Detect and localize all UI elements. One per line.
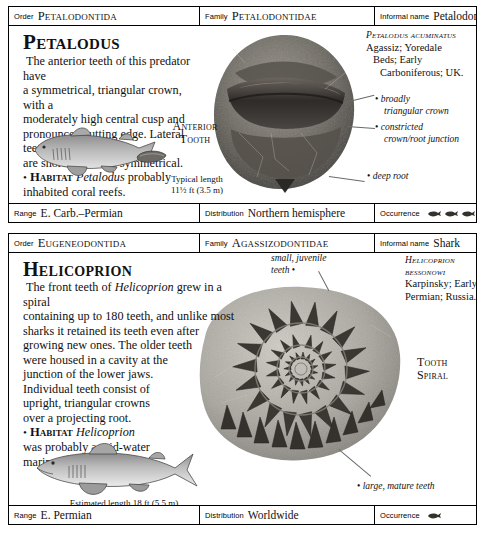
- petalodus-length-note: Typical length 11½ ft (3.5 m): [149, 174, 245, 197]
- annotation-line-2: teeth •: [271, 265, 361, 277]
- specimen-line-1: Karpinsky; Early: [405, 278, 476, 291]
- family-cell: Family Petalodontidae: [199, 7, 374, 25]
- fish-icon: [427, 210, 442, 217]
- occurrence-fish-group: [427, 512, 442, 519]
- annotation-broadly-triangular-crown: • broadly triangular crown: [375, 94, 476, 117]
- annotation-line-1: broadly: [381, 94, 410, 104]
- caption-line-1: Anterior: [159, 120, 231, 133]
- occurrence-label: Occurrence: [380, 511, 420, 520]
- length-value: 11½ ft (3.5 m): [149, 185, 245, 196]
- description-line-5: were housed in a cavity at the: [23, 353, 168, 367]
- specimen-line-3: Carboniferous; UK.: [366, 67, 476, 80]
- distribution-label: Distribution: [205, 209, 244, 218]
- tooth-spiral-caption: Tooth Spiral: [417, 356, 476, 382]
- fish-icon: [427, 512, 442, 519]
- helicoprion-specimen-credit: Helicoprion bessonowi Karpinsky; Early P…: [405, 255, 476, 304]
- informal-name-cell: Informal name Petalodont: [374, 7, 476, 25]
- description-line-3: sharks it retained its teeth even after: [23, 324, 199, 338]
- description-genus: Helicoprion: [115, 280, 174, 294]
- description-line-7: Individual teeth consist of: [23, 382, 150, 396]
- anterior-tooth-caption: Anterior Tooth: [159, 120, 231, 146]
- habitat-line-2: inhabited coral reefs.: [23, 185, 126, 199]
- order-label: Order: [14, 239, 34, 248]
- helicoprion-description: The front teeth of Helicoprion grew in a…: [23, 280, 238, 425]
- description-line-2: a symmetrical, triangular crown, with a: [23, 83, 182, 112]
- petalodus-footer-row: Range E. Carb.–Permian Distribution Nort…: [9, 203, 476, 222]
- informal-name-value: Petalodont: [433, 10, 476, 22]
- helicoprion-shark-illustration: [31, 438, 206, 500]
- description-line-1: The anterior teeth of this predator have: [23, 54, 190, 83]
- helicoprion-body: Helicoprion bessonowi Karpinsky; Early P…: [9, 253, 476, 505]
- petalodus-header-row: Order Petalodontida Family Petalodontida…: [9, 7, 476, 26]
- annotation-constricted-junction: • constricted crown/root junction: [375, 122, 476, 145]
- specimen-line-2: Beds; Early: [366, 54, 476, 67]
- informal-name-label: Informal name: [380, 239, 429, 248]
- petalodus-body: Petalodus acuminatus Agassiz; Yoredale B…: [9, 26, 476, 203]
- helicoprion-footer-row: Range E. Permian Distribution Worldwide …: [9, 505, 476, 524]
- range-cell: Range E. Permian: [9, 506, 199, 524]
- family-value: Petalodontidae: [232, 9, 317, 24]
- informal-name-label: Informal name: [380, 12, 429, 21]
- occurrence-label: Occurrence: [380, 209, 420, 218]
- order-cell: Order Petalodontida: [9, 7, 199, 25]
- length-value: Estimated length 18 ft (5.5 m): [39, 498, 209, 505]
- fish-icon: [461, 210, 476, 217]
- informal-name-cell: Informal name Shark: [374, 234, 476, 252]
- petalodus-fossil-photo: [205, 29, 365, 194]
- helicoprion-panel: Order Eugeneodontida Family Agassizodont…: [8, 233, 477, 525]
- description-line-8: upright, triangular crowns: [23, 396, 150, 410]
- informal-name-value: Shark: [433, 237, 460, 249]
- description-line-2: containing up to 180 teeth, and unlike m…: [23, 309, 234, 323]
- distribution-label: Distribution: [205, 511, 244, 520]
- specimen-line-2: Permian; Russia.: [405, 291, 476, 304]
- description-line-9: over a projecting root.: [23, 411, 131, 425]
- annotation-line-1: small, juvenile: [271, 253, 361, 265]
- petalodus-panel: Order Petalodontida Family Petalodontida…: [8, 6, 477, 223]
- range-cell: Range E. Carb.–Permian: [9, 204, 199, 222]
- fossil-reference-page: Order Petalodontida Family Petalodontida…: [0, 0, 485, 533]
- family-cell: Family Agassizodontidae: [199, 234, 374, 252]
- distribution-value: Northern hemisphere: [248, 207, 345, 219]
- annotation-line-1: large, mature teeth: [363, 481, 435, 491]
- helicoprion-length-note: Estimated length 18 ft (5.5 m): [39, 498, 209, 505]
- caption-line-2: Spiral: [417, 369, 476, 382]
- annotation-line-1: deep root: [373, 171, 409, 181]
- habitat-bullet: •: [23, 426, 27, 438]
- occurrence-cell: Occurrence: [374, 506, 476, 524]
- helicoprion-title: Helicoprion: [23, 259, 238, 279]
- annotation-small-juvenile-teeth: small, juvenile teeth •: [271, 253, 361, 276]
- fish-icon: [444, 210, 459, 217]
- distribution-cell: Distribution Worldwide: [199, 506, 374, 524]
- order-label: Order: [14, 12, 34, 21]
- distribution-cell: Distribution Northern hemisphere: [199, 204, 374, 222]
- description-line-4: growing new ones. The older teeth: [23, 338, 192, 352]
- small-tooth-icon: [135, 148, 169, 166]
- specimen-line-1: Agassiz; Yoredale: [366, 42, 476, 55]
- range-value: E. Carb.–Permian: [41, 207, 123, 219]
- specimen-binomial-line-2: bessonowi: [405, 267, 476, 279]
- family-value: Agassizodontidae: [232, 236, 329, 251]
- helicoprion-header-row: Order Eugeneodontida Family Agassizodont…: [9, 234, 476, 253]
- order-value: Eugeneodontida: [38, 236, 126, 251]
- range-value: E. Permian: [41, 509, 92, 521]
- family-label: Family: [205, 239, 228, 248]
- distribution-value: Worldwide: [248, 509, 299, 521]
- caption-line-1: Tooth: [417, 356, 476, 369]
- annotation-line-1: constricted: [381, 122, 423, 132]
- petalodus-specimen-credit: Petalodus acuminatus Agassiz; Yoredale B…: [366, 30, 476, 80]
- specimen-binomial-line-1: Helicoprion: [405, 255, 476, 267]
- range-label: Range: [14, 209, 37, 218]
- range-label: Range: [14, 511, 37, 520]
- occurrence-cell: Occurrence: [374, 204, 476, 222]
- length-label: Typical length: [149, 174, 245, 185]
- annotation-line-2: crown/root junction: [375, 134, 476, 146]
- annotation-line-2: triangular crown: [375, 106, 476, 118]
- order-value: Petalodontida: [38, 9, 117, 24]
- petalodus-title: Petalodus: [23, 32, 203, 53]
- family-label: Family: [205, 12, 228, 21]
- specimen-binomial: Petalodus acuminatus: [366, 30, 476, 42]
- annotation-deep-root: • deep root: [367, 171, 476, 183]
- description-line-6: junction of the lower jaws.: [23, 367, 153, 381]
- description-line-1a: The front teeth of: [23, 280, 115, 294]
- order-cell: Order Eugeneodontida: [9, 234, 199, 252]
